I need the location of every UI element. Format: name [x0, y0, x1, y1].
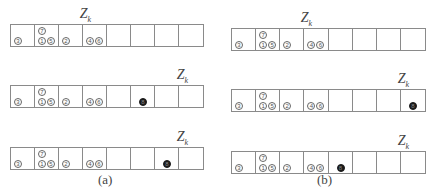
slot-cell: 3	[11, 148, 35, 169]
slot-cell	[131, 148, 155, 169]
numbered-ball: 2	[62, 160, 70, 168]
numbered-ball: 1	[38, 98, 46, 106]
slot-cell: 2	[280, 152, 304, 173]
slot-cell	[179, 25, 203, 46]
numbered-ball: 4	[86, 160, 94, 168]
slot-row: 3715246	[10, 24, 204, 47]
slot-cell: 46	[304, 90, 328, 111]
numbered-ball: 3	[14, 98, 22, 106]
numbered-ball: 5	[268, 41, 276, 49]
slot-cell: 2	[280, 90, 304, 111]
numbered-ball: 6	[95, 37, 103, 45]
slot-cell: 715	[256, 29, 280, 50]
numbered-ball: 2	[62, 37, 70, 45]
numbered-ball: 5	[47, 37, 55, 45]
slot-cell	[353, 152, 377, 173]
slot-cell	[107, 25, 131, 46]
numbered-ball: 6	[95, 98, 103, 106]
slot-cell: 3	[11, 25, 35, 46]
new-ball-dark: 8	[139, 98, 147, 106]
slot-cell: 8	[131, 86, 155, 107]
numbered-ball: 4	[86, 98, 94, 106]
slot-cell	[131, 25, 155, 46]
slot-cell	[329, 29, 353, 50]
z-k-label: Zk	[177, 129, 188, 147]
slot-cell	[155, 86, 179, 107]
z-k-label: Zk	[301, 10, 312, 28]
slot-row: 37152468	[10, 85, 204, 108]
numbered-ball: 3	[235, 102, 243, 110]
slot-cell	[377, 29, 401, 50]
numbered-ball: 7	[38, 27, 46, 35]
z-k-label: Zk	[398, 133, 409, 151]
slot-cell: 715	[256, 152, 280, 173]
slot-cell	[107, 86, 131, 107]
slot-cell: 3	[232, 90, 256, 111]
slot-cell: 2	[59, 148, 83, 169]
slot-cell: 2	[59, 86, 83, 107]
numbered-ball: 1	[259, 102, 267, 110]
numbered-ball: 5	[268, 102, 276, 110]
numbered-ball: 6	[316, 41, 324, 49]
numbered-ball: 7	[259, 154, 267, 162]
numbered-ball: 6	[95, 160, 103, 168]
slot-cell: 46	[304, 152, 328, 173]
slot-cell	[401, 29, 425, 50]
new-ball-dark: 8	[409, 102, 417, 110]
numbered-ball: 3	[14, 160, 22, 168]
numbered-ball: 2	[283, 41, 291, 49]
slot-cell	[179, 148, 203, 169]
numbered-ball: 2	[62, 98, 70, 106]
slot-cell	[107, 148, 131, 169]
z-k-label: Zk	[80, 6, 91, 24]
slot-cell: 8	[401, 90, 425, 111]
numbered-ball: 4	[86, 37, 94, 45]
slot-cell	[353, 29, 377, 50]
numbered-ball: 3	[235, 164, 243, 172]
numbered-ball: 1	[38, 160, 46, 168]
numbered-ball: 1	[259, 164, 267, 172]
numbered-ball: 1	[259, 41, 267, 49]
numbered-ball: 3	[14, 37, 22, 45]
numbered-ball: 7	[259, 92, 267, 100]
slot-cell: 715	[35, 25, 59, 46]
numbered-ball: 2	[283, 164, 291, 172]
slot-cell: 46	[83, 86, 107, 107]
numbered-ball: 2	[283, 102, 291, 110]
slot-cell: 715	[256, 90, 280, 111]
numbered-ball: 4	[307, 102, 315, 110]
slot-cell: 46	[83, 25, 107, 46]
numbered-ball: 6	[316, 164, 324, 172]
slot-row: 37152468	[10, 147, 204, 170]
new-ball-dark: 8	[337, 164, 345, 172]
new-ball-dark: 8	[163, 160, 171, 168]
slot-cell: 46	[304, 29, 328, 50]
numbered-ball: 7	[38, 150, 46, 158]
slot-cell	[353, 90, 377, 111]
slot-cell	[377, 152, 401, 173]
numbered-ball: 4	[307, 41, 315, 49]
slot-cell: 715	[35, 148, 59, 169]
numbered-ball: 1	[38, 37, 46, 45]
slot-cell: 3	[11, 86, 35, 107]
slot-cell: 8	[329, 152, 353, 173]
slot-cell: 46	[83, 148, 107, 169]
panel-caption: (a)	[98, 172, 112, 188]
z-k-label: Zk	[398, 71, 409, 89]
numbered-ball: 7	[259, 31, 267, 39]
numbered-ball: 7	[38, 88, 46, 96]
numbered-ball: 3	[235, 41, 243, 49]
slot-cell	[155, 25, 179, 46]
slot-cell: 3	[232, 29, 256, 50]
slot-row: 37152468	[231, 151, 426, 174]
slot-cell: 2	[59, 25, 83, 46]
slot-cell: 3	[232, 152, 256, 173]
panel-caption: (b)	[317, 172, 332, 188]
numbered-ball: 5	[47, 98, 55, 106]
numbered-ball: 5	[47, 160, 55, 168]
z-k-label: Zk	[177, 67, 188, 85]
slot-cell	[179, 86, 203, 107]
numbered-ball: 5	[268, 164, 276, 172]
slot-cell: 715	[35, 86, 59, 107]
numbered-ball: 4	[307, 164, 315, 172]
